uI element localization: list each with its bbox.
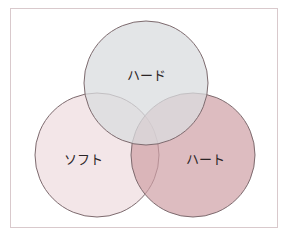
label-heart: ハート bbox=[186, 152, 225, 167]
label-soft: ソフト bbox=[64, 152, 103, 167]
venn-diagram: ハード ソフト ハート bbox=[0, 0, 284, 234]
label-hard: ハード bbox=[127, 68, 166, 83]
circle-hard bbox=[84, 21, 208, 145]
